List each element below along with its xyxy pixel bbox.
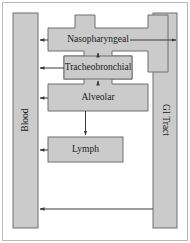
node-alveolar[interactable]: Alveolar bbox=[48, 84, 148, 111]
blood-label: Blood bbox=[20, 108, 30, 131]
nasopharyngeal-label: Nasopharyngeal bbox=[67, 34, 129, 44]
lymph-label: Lymph bbox=[72, 144, 99, 154]
node-blood[interactable]: Blood bbox=[13, 13, 38, 228]
diagram-canvas: Blood GI Tract Tracheobronchial Nasophar… bbox=[0, 0, 190, 243]
alveolar-label: Alveolar bbox=[81, 92, 115, 102]
diagram-root: Blood GI Tract Tracheobronchial Nasophar… bbox=[0, 0, 190, 243]
node-tracheobronchial[interactable]: Tracheobronchial bbox=[64, 56, 132, 79]
gi-tract-label: GI Tract bbox=[161, 104, 171, 136]
node-lymph[interactable]: Lymph bbox=[48, 137, 123, 162]
tracheobronchial-label: Tracheobronchial bbox=[65, 62, 132, 72]
